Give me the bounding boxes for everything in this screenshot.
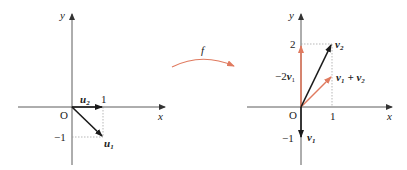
linear-map-diagram: x y O 1 −1 u2 u1 f x y O 1 2 −1 v2 v1 −2… bbox=[0, 0, 407, 170]
map-arrow: f bbox=[172, 44, 234, 67]
right-plot: x y O 1 2 −1 v2 v1 −2v1 v₁ + v₂ bbox=[247, 9, 392, 165]
curved-arrow-icon bbox=[172, 59, 234, 67]
vector-v2 bbox=[301, 45, 331, 107]
left-tick-y-neg1: −1 bbox=[54, 131, 66, 143]
label-v1-plus-v2: v₁ + v₂ bbox=[336, 71, 365, 83]
right-tick-y-neg1: −1 bbox=[282, 132, 294, 144]
vector-u1 bbox=[72, 107, 102, 136]
left-plot: x y O 1 −1 u2 u1 bbox=[18, 9, 165, 165]
label-v1: v1 bbox=[307, 131, 315, 145]
label-u1: u1 bbox=[104, 137, 114, 151]
right-y-axis-label: y bbox=[288, 9, 294, 21]
left-origin-label: O bbox=[60, 109, 68, 121]
left-y-axis-label: y bbox=[59, 9, 65, 21]
right-tick-x-1: 1 bbox=[330, 110, 336, 122]
label-u2: u2 bbox=[80, 93, 90, 107]
right-origin-label: O bbox=[289, 109, 297, 121]
left-tick-x-1: 1 bbox=[101, 93, 107, 105]
label-v2: v2 bbox=[335, 38, 344, 52]
right-x-axis-label: x bbox=[386, 110, 392, 122]
right-tick-y-2: 2 bbox=[290, 38, 296, 50]
vector-v1-plus-v2 bbox=[301, 77, 331, 107]
left-x-axis-label: x bbox=[157, 110, 163, 122]
label-neg2v1: −2v1 bbox=[275, 70, 296, 84]
map-label-f: f bbox=[201, 44, 206, 56]
